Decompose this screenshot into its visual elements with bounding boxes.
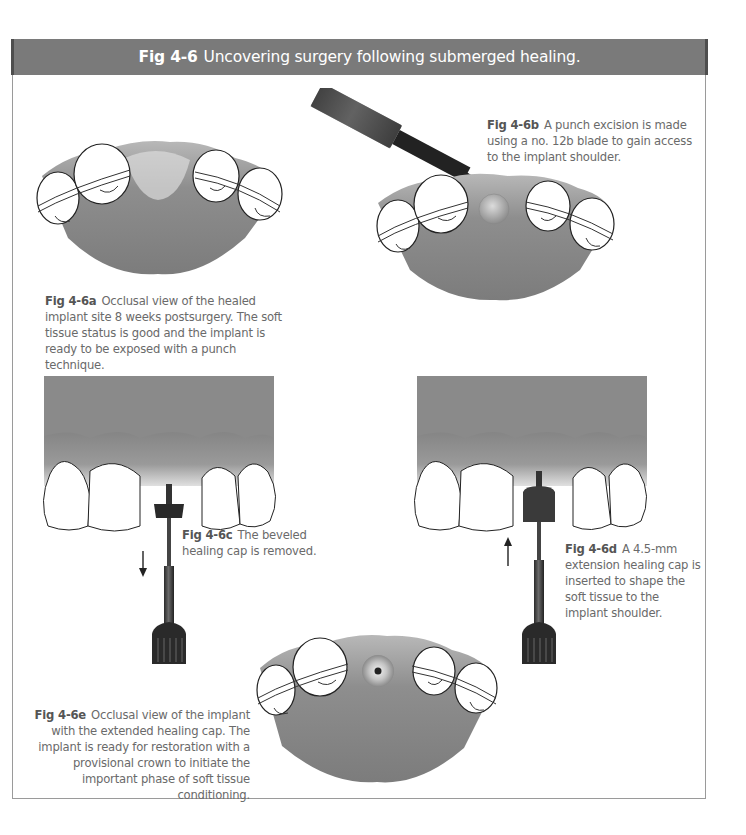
figure-title: Fig 4-6Uncovering surgery following subm… bbox=[139, 48, 581, 66]
caption-fig-4-6a: Fig 4-6aOcclusal view of the healed impl… bbox=[45, 293, 295, 373]
illustration-occlusal-extended-cap bbox=[252, 626, 502, 786]
caption-label: Fig 4-6a bbox=[45, 294, 96, 308]
illustration-extension-cap bbox=[405, 376, 675, 666]
figure-header: Fig 4-6Uncovering surgery following subm… bbox=[11, 39, 708, 75]
caption-fig-4-6e: Fig 4-6eOcclusal view of the implant wit… bbox=[22, 707, 250, 803]
caption-fig-4-6d: Fig 4-6dA 4.5-mm extension healing cap i… bbox=[565, 541, 705, 621]
caption-fig-4-6c: Fig 4-6cThe beveled healing cap is remov… bbox=[182, 527, 322, 559]
arrow-up-icon bbox=[504, 537, 512, 566]
illustration-cap-removal bbox=[30, 376, 280, 666]
caption-label: Fig 4-6d bbox=[565, 542, 617, 556]
caption-text: Occlusal view of the implant with the ex… bbox=[38, 708, 250, 802]
figure-title-text: Uncovering surgery following submerged h… bbox=[204, 48, 581, 66]
caption-label: Fig 4-6e bbox=[35, 708, 86, 722]
illustration-occlusal-healed bbox=[30, 128, 285, 278]
caption-label: Fig 4-6c bbox=[182, 528, 232, 542]
caption-label: Fig 4-6b bbox=[487, 118, 539, 132]
caption-fig-4-6b: Fig 4-6bA punch excision is made using a… bbox=[487, 117, 702, 165]
figure-label: Fig 4-6 bbox=[139, 48, 198, 66]
arrow-down-icon bbox=[139, 551, 147, 577]
